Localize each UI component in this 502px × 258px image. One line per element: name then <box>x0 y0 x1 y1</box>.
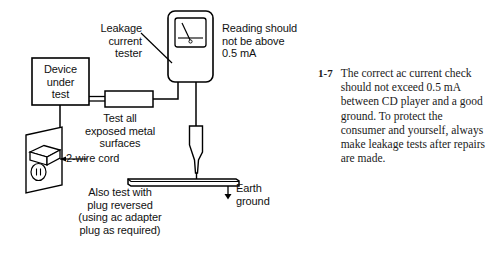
earth-ground-symbol <box>225 186 232 200</box>
connector-body <box>105 91 153 107</box>
caption-text: The correct ac current check should not … <box>341 66 489 165</box>
leakage-current-test-figure: Leakage current tester Reading should no… <box>0 0 502 258</box>
label-device-under-test: Device under test <box>32 63 89 101</box>
outlet-receptacle <box>31 164 46 181</box>
probe-body <box>190 126 203 173</box>
label-leakage-current-tester: Leakage current tester <box>78 22 142 60</box>
figure-caption: 1-7 The correct ac current check should … <box>318 66 498 165</box>
grounded-metal-bar <box>128 179 239 186</box>
label-reading-note: Reading should not be above 0.5 mA <box>222 22 308 60</box>
ground-arrowhead <box>225 194 232 200</box>
inline-connector-block <box>89 91 153 107</box>
caption-number: 1-7 <box>318 66 341 80</box>
label-plug-reversed-note: Also test with plug reversed (using ac a… <box>60 186 180 236</box>
ground-bar-body <box>128 179 239 186</box>
label-two-wire-cord: 2-wire cord <box>66 152 136 165</box>
test-probe <box>190 126 203 180</box>
meter-needle-pivot <box>189 40 192 43</box>
label-test-all-surfaces: Test all exposed metal surfaces <box>75 112 165 150</box>
lead-connector-to-meter <box>153 82 178 99</box>
analog-panel-meter <box>168 11 213 82</box>
label-earth-ground: Earth ground <box>236 182 280 207</box>
